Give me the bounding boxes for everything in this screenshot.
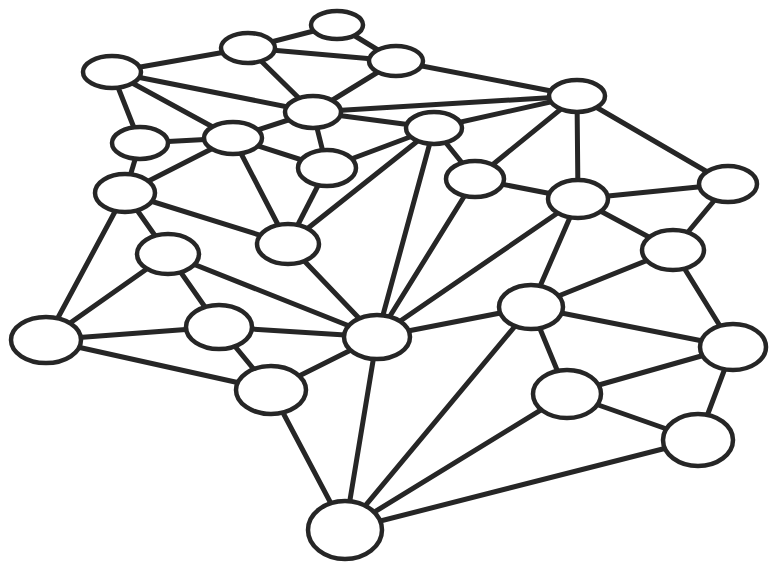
node-N (446, 161, 504, 197)
network-diagram (0, 0, 776, 563)
node-X (700, 324, 766, 370)
edge-N-U (377, 179, 475, 337)
node-L (549, 80, 605, 112)
node-V (308, 501, 382, 559)
node-I (95, 174, 155, 212)
node-W (499, 285, 563, 329)
node-P (699, 166, 757, 202)
edge-layer (46, 25, 733, 530)
node-T (236, 366, 306, 414)
node-A (311, 11, 363, 39)
node-J (257, 224, 319, 264)
node-Q (642, 230, 704, 270)
node-H (298, 150, 356, 186)
node-S (186, 305, 252, 349)
node-O (548, 180, 608, 218)
node-K (137, 234, 199, 274)
node-G (112, 127, 168, 159)
edge-Y-V (345, 394, 567, 530)
node-E (285, 96, 341, 128)
edge-J-M (288, 128, 434, 244)
node-F (204, 122, 262, 154)
node-U (344, 315, 410, 359)
node-D (369, 46, 423, 76)
node-M (406, 112, 462, 144)
node-B (221, 33, 275, 63)
node-R (11, 317, 81, 363)
node-C (83, 56, 141, 88)
edge-Z-V (345, 440, 698, 530)
node-Z (663, 414, 733, 466)
edge-C-E (112, 72, 313, 112)
node-Y (533, 370, 601, 418)
